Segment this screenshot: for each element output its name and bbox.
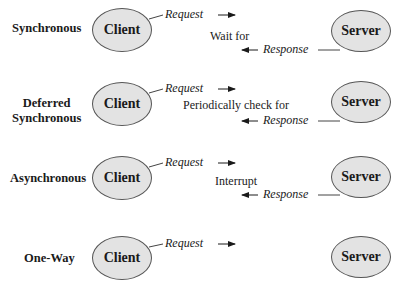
server-node: Server	[331, 156, 391, 198]
server-label: Server	[341, 169, 381, 185]
server-label: Server	[341, 23, 381, 39]
communication-modes-diagram: Synchronous Client Request Wait for Resp…	[0, 0, 396, 296]
server-label: Server	[341, 249, 381, 265]
client-label: Client	[104, 170, 141, 186]
mode-label-asynchronous: Asynchronous	[10, 171, 86, 186]
response-label: Response	[263, 42, 308, 57]
mode-label-line2: Synchronous	[12, 111, 81, 126]
mode-label-one-way: One-Way	[24, 251, 75, 266]
mode-label-deferred-synchronous: Deferred Synchronous	[12, 96, 81, 126]
server-node: Server	[331, 236, 391, 278]
server-label: Server	[341, 94, 381, 110]
mode-label-synchronous: Synchronous	[12, 21, 81, 36]
action-label: Interrupt	[215, 174, 257, 189]
client-label: Client	[104, 250, 141, 266]
action-label: Wait for	[210, 29, 249, 44]
client-node: Client	[92, 82, 152, 126]
request-label: Request	[165, 155, 203, 170]
request-label: Request	[165, 7, 203, 22]
server-node: Server	[331, 81, 391, 123]
request-label: Request	[165, 81, 203, 96]
response-label: Response	[263, 187, 308, 202]
response-label: Response	[263, 113, 308, 128]
server-node: Server	[331, 10, 391, 52]
action-label: Periodically check for	[183, 98, 289, 113]
client-node: Client	[92, 156, 152, 200]
client-label: Client	[104, 22, 141, 38]
client-node: Client	[92, 236, 152, 280]
mode-label-line1: Deferred	[12, 96, 81, 111]
client-node: Client	[92, 8, 152, 52]
client-label: Client	[104, 96, 141, 112]
request-label: Request	[165, 236, 203, 251]
